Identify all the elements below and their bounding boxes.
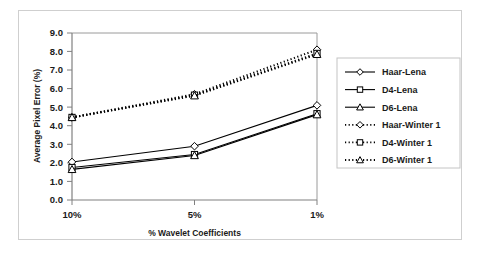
data-point-marker [191,142,199,150]
y-tick-label: 7.0 [50,64,63,75]
y-tick-label: 0.0 [50,194,63,205]
series-d4-lena [69,111,320,171]
x-axis-tick-labels: 10% 5% 1% [62,209,324,220]
y-tick-label: 3.0 [50,139,63,150]
x-axis-title: % Wavelet Coefficients [148,228,241,238]
y-tick-label: 8.0 [50,46,63,57]
series-d4-winter-1 [69,50,320,120]
y-tick-label: 9.0 [50,27,63,38]
y-tick-label: 2.0 [50,157,63,168]
legend: Haar-LenaD4-LenaD6-LenaHaar-Winter 1D4-W… [337,58,460,168]
legend-label: D4-Lena [382,85,419,95]
x-axis-ticks [72,200,317,205]
data-point-marker [313,102,321,110]
x-tick-label: 5% [188,209,202,220]
chart-figure: 0.0 1.0 2.0 3.0 4.0 5.0 6.0 7.0 8.0 9.0 … [0,0,479,269]
series-haar-winter-1 [68,46,321,121]
series-line [72,53,317,117]
y-tick-label: 6.0 [50,83,63,94]
series-line [72,54,317,117]
legend-marker-swatch [357,140,362,145]
x-tick-label: 10% [62,209,82,220]
y-tick-label: 4.0 [50,120,63,131]
legend-label: Haar-Lena [382,67,427,77]
series-line [72,50,317,118]
legend-marker-swatch [357,87,362,92]
legend-label: D4-Winter 1 [382,138,432,148]
x-tick-label: 1% [310,209,324,220]
y-tick-label: 5.0 [50,102,63,113]
y-axis-tick-labels: 0.0 1.0 2.0 3.0 4.0 5.0 6.0 7.0 8.0 9.0 [50,27,63,205]
series-d6-lena [68,111,321,173]
legend-label: D6-Lena [382,103,419,113]
plot-area-frame [72,33,317,200]
y-axis-title: Average Pixel Error (%) [32,69,42,163]
line-chart: 0.0 1.0 2.0 3.0 4.0 5.0 6.0 7.0 8.0 9.0 … [0,0,479,269]
series-d6-winter-1 [68,50,321,120]
y-tick-label: 1.0 [50,176,63,187]
data-series-layer [68,46,321,173]
series-line [72,114,317,168]
legend-label: D6-Winter 1 [382,155,432,165]
legend-label: Haar-Winter 1 [382,120,440,130]
